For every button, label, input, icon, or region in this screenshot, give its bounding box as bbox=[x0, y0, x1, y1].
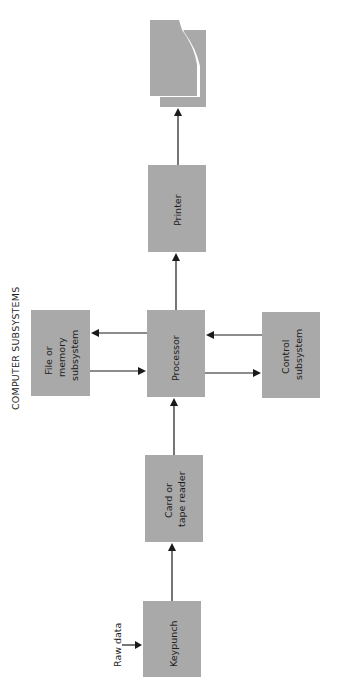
file-label-line3: subsystem bbox=[69, 330, 80, 381]
diagram-title: COMPUTER SUBSYSTEMS bbox=[10, 287, 21, 410]
arrow-file-to-processor bbox=[90, 367, 146, 375]
document-stack-icon bbox=[150, 20, 206, 107]
file-label-line1: File or bbox=[43, 346, 54, 375]
keypunch-label: Keypunch bbox=[168, 620, 179, 667]
printer-box: Printer bbox=[148, 165, 206, 252]
control-label-line2: subsystem bbox=[293, 329, 304, 380]
control-subsystem-box: Control subsystem bbox=[262, 312, 320, 398]
file-memory-subsystem-box: File or memory subsystem bbox=[31, 310, 90, 396]
printer-label: Printer bbox=[172, 194, 183, 226]
processor-label: Processor bbox=[170, 335, 181, 381]
arrow-printer-to-output bbox=[174, 108, 182, 165]
computer-subsystems-diagram: COMPUTER SUBSYSTEMS Printer File or memo… bbox=[0, 0, 338, 685]
reader-label-line1: Card or bbox=[163, 483, 174, 518]
arrow-processor-to-file bbox=[91, 329, 147, 337]
arrow-processor-to-control bbox=[205, 369, 261, 377]
arrow-raw-data-to-keypunch bbox=[122, 641, 142, 649]
raw-data-label: Raw data bbox=[112, 623, 123, 667]
arrow-reader-to-processor bbox=[170, 398, 178, 455]
card-tape-reader-box: Card or tape reader bbox=[145, 455, 203, 542]
arrow-keypunch-to-reader bbox=[168, 543, 176, 601]
file-label-line2: memory bbox=[56, 337, 67, 377]
arrow-processor-to-printer bbox=[172, 253, 180, 310]
control-label-line1: Control bbox=[280, 340, 291, 374]
reader-label-line2: tape reader bbox=[176, 471, 187, 527]
arrow-control-to-processor bbox=[206, 331, 262, 339]
processor-box: Processor bbox=[147, 310, 205, 397]
keypunch-box: Keypunch bbox=[143, 601, 201, 677]
